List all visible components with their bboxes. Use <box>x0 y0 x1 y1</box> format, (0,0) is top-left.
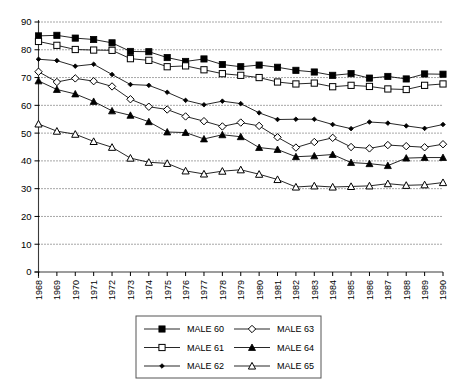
data-point-marker <box>219 61 225 67</box>
legend-label: MALE 61 <box>187 343 224 353</box>
data-point-marker <box>422 71 428 77</box>
data-point-marker <box>348 82 354 88</box>
line-chart: 0102030405060708090 19681969197019711972… <box>0 0 452 391</box>
data-point-marker <box>385 86 391 92</box>
legend-label: MALE 60 <box>187 324 224 334</box>
data-point-marker <box>109 40 115 46</box>
x-tick-label: 1977 <box>199 280 209 300</box>
data-point-marker <box>164 54 170 60</box>
data-point-marker <box>330 84 336 90</box>
data-point-marker <box>274 79 280 85</box>
data-point-marker <box>256 62 262 68</box>
data-point-marker <box>201 67 207 73</box>
data-point-marker <box>54 42 60 48</box>
data-point-marker <box>146 49 152 55</box>
x-tick-label: 1971 <box>89 280 99 300</box>
y-tick-label: 10 <box>21 239 32 250</box>
x-tick-label: 1981 <box>273 280 283 300</box>
data-point-marker <box>440 81 446 87</box>
y-tick-label: 20 <box>21 211 32 222</box>
legend-marker-icon <box>159 326 165 332</box>
x-tick-label: 1989 <box>420 280 430 300</box>
x-tick-label: 1990 <box>438 280 448 300</box>
data-point-marker <box>219 71 225 77</box>
y-tick-label: 0 <box>26 266 31 277</box>
data-point-marker <box>366 83 372 89</box>
x-tick-label: 1979 <box>236 280 246 300</box>
x-tick-label: 1969 <box>52 280 62 300</box>
x-tick-label: 1973 <box>126 280 136 300</box>
data-point-marker <box>422 82 428 88</box>
data-point-marker <box>311 69 317 75</box>
data-point-marker <box>293 81 299 87</box>
y-tick-label: 40 <box>21 155 32 166</box>
x-tick-label: 1968 <box>34 280 44 300</box>
data-point-marker <box>201 56 207 62</box>
data-point-marker <box>72 35 78 41</box>
x-tick-label: 1986 <box>365 280 375 300</box>
data-point-marker <box>293 67 299 73</box>
x-tick-label: 1976 <box>181 280 191 300</box>
x-tick-label: 1970 <box>71 280 81 300</box>
data-point-marker <box>274 64 280 70</box>
data-point-marker <box>146 57 152 63</box>
x-tick-label: 1988 <box>402 280 412 300</box>
x-tick-label: 1975 <box>163 280 173 300</box>
y-tick-label: 50 <box>21 128 32 139</box>
x-tick-label: 1974 <box>144 280 154 300</box>
data-point-marker <box>35 38 41 44</box>
chart-canvas: 0102030405060708090 19681969197019711972… <box>0 0 452 391</box>
x-tick-label: 1972 <box>107 280 117 300</box>
data-point-marker <box>330 72 336 78</box>
x-tick-label: 1987 <box>383 280 393 300</box>
y-tick-label: 80 <box>21 44 32 55</box>
x-tick-label: 1978 <box>218 280 228 300</box>
data-point-marker <box>109 47 115 53</box>
data-point-marker <box>440 71 446 77</box>
x-tick-label: 1980 <box>255 280 265 300</box>
x-tick-label: 1984 <box>328 280 338 300</box>
data-point-marker <box>72 46 78 52</box>
data-point-marker <box>366 75 372 81</box>
chart-legend[interactable]: MALE 60MALE 63MALE 61MALE 64MALE 62MALE … <box>136 316 321 378</box>
x-tick-label: 1983 <box>310 280 320 300</box>
data-point-marker <box>256 74 262 80</box>
x-tick-label: 1985 <box>346 280 356 300</box>
data-point-marker <box>127 48 133 54</box>
legend-label: MALE 63 <box>277 324 314 334</box>
data-point-marker <box>385 73 391 79</box>
legend-marker-icon <box>159 344 165 350</box>
data-point-marker <box>403 76 409 82</box>
x-tick-label: 1982 <box>291 280 301 300</box>
data-point-marker <box>348 71 354 77</box>
data-point-marker <box>238 72 244 78</box>
data-point-marker <box>311 80 317 86</box>
data-point-marker <box>127 56 133 62</box>
data-point-marker <box>54 32 60 38</box>
y-tick-label: 60 <box>21 100 32 111</box>
data-point-marker <box>403 86 409 92</box>
data-point-marker <box>238 64 244 70</box>
y-tick-label: 70 <box>21 72 32 83</box>
legend-label: MALE 65 <box>277 361 314 371</box>
y-tick-label: 30 <box>21 183 32 194</box>
legend-label: MALE 62 <box>187 361 224 371</box>
data-point-marker <box>91 47 97 53</box>
y-tick-label: 90 <box>21 16 32 27</box>
data-point-marker <box>91 36 97 42</box>
data-point-marker <box>164 64 170 70</box>
legend-label: MALE 64 <box>277 343 314 353</box>
data-point-marker <box>182 63 188 69</box>
